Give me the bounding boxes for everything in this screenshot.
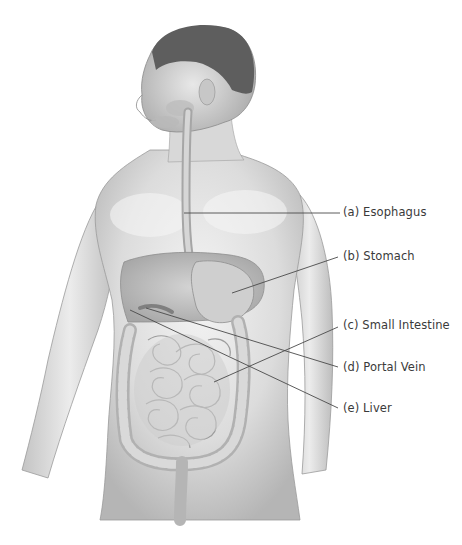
head [136,25,255,132]
esophagus [186,112,190,262]
label-esophagus: (a) Esophagus [343,207,427,219]
label-portal-vein: (d) Portal Vein [343,362,426,374]
label-liver: (e) Liver [343,403,392,415]
digestive-system-illustration [0,0,462,545]
label-stomach: (b) Stomach [343,251,415,263]
label-small-intestine: (c) Small Intestine [343,320,450,332]
